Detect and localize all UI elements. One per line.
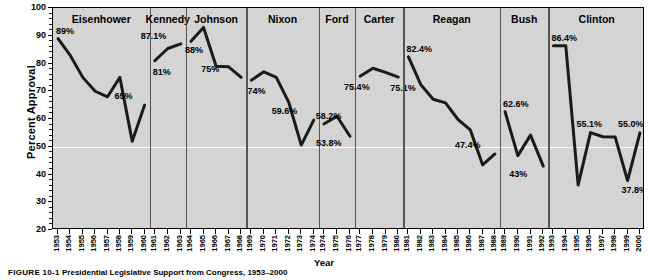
x-tick-label: 1958 [115,235,123,252]
panel-divider-reagan [403,8,404,228]
figure-container: Percent Approval 1009080706050403020 Eis… [0,0,648,280]
x-tick-mark [517,229,518,234]
y-minor-tick [49,157,52,158]
x-tick-mark [589,229,590,234]
x-tick-label: 1962 [163,235,171,252]
x-tick-label: 1975 [332,235,340,252]
line-kennedy [155,44,181,61]
y-tick-label: 40 [20,169,46,179]
x-tick-mark [82,229,83,234]
x-tick-mark [432,229,433,234]
x-tick-label: 1979 [381,235,389,252]
x-tick-mark [504,229,505,234]
x-tick-mark [275,229,276,234]
x-tick-label: 1997 [598,235,606,252]
y-tick-mark [48,35,52,36]
x-tick-label: 1954 [65,235,73,252]
x-tick-label: 1996 [585,235,593,252]
x-tick-mark [530,229,531,234]
x-tick-mark [144,229,145,234]
y-tick-mark [48,146,52,147]
y-minor-tick [49,207,52,208]
x-tick-mark [359,229,360,234]
x-tick-mark [407,229,408,234]
y-minor-tick [49,13,52,14]
y-minor-tick [49,96,52,97]
x-tick-mark [397,229,398,234]
data-label: 88% [185,45,203,55]
x-tick-mark [552,229,553,234]
y-minor-tick [49,85,52,86]
x-tick-label: 1982 [416,235,424,252]
y-minor-tick [49,101,52,102]
y-minor-tick [49,179,52,180]
x-tick-label: 1987 [478,235,486,252]
data-label: 89% [56,26,74,36]
x-tick-mark [69,229,70,234]
y-tick-label: 80 [20,58,46,68]
x-tick-mark [288,229,289,234]
panel-title-kennedy: Kennedy [146,13,190,25]
x-tick-label: 1974 [319,235,327,252]
y-minor-tick [49,129,52,130]
y-minor-tick [49,74,52,75]
panel-title-johnson: Johnson [194,13,238,25]
panel-title-carter: Carter [364,13,395,25]
x-tick-mark [614,229,615,234]
x-tick-label: 1985 [453,235,461,252]
y-minor-tick [49,162,52,163]
x-tick-label: 1969 [246,235,254,252]
y-minor-tick [49,68,52,69]
figure-caption: FIGURE 10-1 Presidential Legislative Sup… [8,268,648,277]
data-label: 43% [509,169,527,179]
x-tick-label: 1977 [355,235,363,252]
x-tick-mark [240,229,241,234]
x-tick-label: 1980 [393,235,401,252]
x-tick-mark [190,229,191,234]
y-minor-tick [49,140,52,141]
line-eisenhower [58,39,145,142]
panel-divider-johnson [186,8,187,228]
y-minor-tick [49,223,52,224]
y-tick-mark [48,174,52,175]
y-minor-tick [49,46,52,47]
x-tick-mark [565,229,566,234]
x-tick-label: 1960 [140,235,148,252]
data-label: 47.4% [455,140,481,150]
x-tick-mark [494,229,495,234]
x-tick-mark [372,229,373,234]
x-tick-mark [203,229,204,234]
data-label: 86.4% [551,33,577,43]
y-minor-tick [49,57,52,58]
x-tick-mark [228,229,229,234]
x-tick-mark [313,229,314,234]
x-tick-mark [542,229,543,234]
x-tick-mark [336,229,337,234]
panel-title-nixon: Nixon [268,13,297,25]
line-bush [505,112,543,166]
x-tick-mark [215,229,216,234]
data-label: 65% [115,91,133,101]
line-clinton [553,46,640,185]
x-tick-label: 1986 [465,235,473,252]
x-tick-label: 1956 [90,235,98,252]
data-label: 59.6% [272,106,298,116]
y-tick-mark [48,201,52,202]
data-label: 58.2% [316,111,342,121]
y-tick-label: 100 [20,2,46,12]
x-tick-mark [577,229,578,234]
x-tick-label: 1957 [103,235,111,252]
y-minor-tick [49,212,52,213]
x-tick-mark [482,229,483,234]
x-tick-mark [445,229,446,234]
figure-caption-text: Presidential Legislative Support from Co… [62,268,287,277]
x-tick-mark [420,229,421,234]
data-label: 87.1% [141,31,167,41]
x-tick-label: 1976 [345,235,353,252]
x-tick-mark [349,229,350,234]
data-label: 37.8% [622,185,644,195]
x-tick-mark [57,229,58,234]
x-tick-label: 2000 [635,235,643,252]
panel-title-ford: Ford [325,13,348,25]
x-tick-label: 1953 [53,235,61,252]
